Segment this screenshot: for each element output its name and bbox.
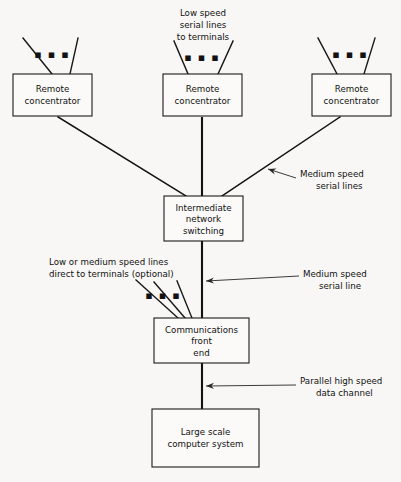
medium-speed-lines-line1: Medium speed: [300, 169, 364, 179]
node-remote-concentrator-right: Remote concentrator: [312, 74, 391, 116]
node-remote-concentrator-left: Remote concentrator: [13, 74, 92, 116]
medium-speed-lines-line2: serial lines: [316, 181, 363, 191]
diagram-canvas: ▪ ▪ ▪ ▪ ▪ ▪ ▪ ▪ ▪ ▪ ▪ ▪ Remot: [0, 0, 401, 482]
optional-line1: Low or medium speed lines: [49, 257, 169, 267]
low-speed-line3: to terminals: [177, 32, 230, 42]
ellipsis-right: ▪ ▪ ▪: [332, 48, 368, 61]
label-remote-concentrator-left-line1: Remote: [36, 84, 70, 94]
leader-parallel-high-speed-channel: [206, 385, 296, 386]
medium-speed-line-line2: serial line: [319, 281, 361, 291]
node-large-scale-computer-system: Large scale computer system: [152, 409, 259, 467]
low-speed-line1: Low speed: [180, 8, 226, 18]
leader-medium-speed-serial-lines: [268, 169, 296, 178]
annotation-medium-speed-serial-line: Medium speed serial line: [206, 269, 367, 291]
terminal-fan-left: ▪ ▪ ▪: [23, 38, 78, 74]
label-computer-system-line1: Large scale: [181, 427, 231, 437]
ellipsis-left: ▪ ▪ ▪: [34, 48, 70, 61]
medium-speed-line-line1: Medium speed: [303, 269, 367, 279]
label-computer-system-line2: computer system: [167, 439, 243, 449]
label-remote-concentrator-right-line2: concentrator: [324, 96, 380, 106]
node-communications-front-end: Communications front end: [154, 318, 249, 363]
label-front-end-line2: front: [191, 336, 212, 346]
annotation-medium-speed-serial-lines: Medium speed serial lines: [268, 169, 364, 191]
link-left-concentrator-to-switch: [58, 117, 186, 196]
annotation-low-or-medium-optional: Low or medium speed lines direct to term…: [49, 257, 174, 279]
terminal-line-left-2: [70, 38, 78, 74]
low-speed-line2: serial lines: [180, 20, 227, 30]
network-diagram: ▪ ▪ ▪ ▪ ▪ ▪ ▪ ▪ ▪ ▪ ▪ ▪ Remot: [0, 0, 401, 482]
optional-line2: direct to terminals (optional): [49, 269, 174, 279]
label-remote-concentrator-right-line1: Remote: [335, 84, 369, 94]
label-intermediate-line3: switching: [183, 226, 224, 236]
terminal-line-center-2: [218, 41, 233, 74]
label-intermediate-line1: Intermediate: [175, 203, 231, 213]
leader-medium-speed-serial-line: [206, 276, 299, 281]
terminal-fan-center: ▪ ▪ ▪: [174, 41, 233, 74]
annotation-low-speed-serial-lines: Low speed serial lines to terminals: [177, 8, 230, 42]
parallel-channel-line1: Parallel high speed: [300, 376, 382, 386]
label-remote-concentrator-left-line2: concentrator: [25, 96, 81, 106]
ellipsis-optional: ▪ ▪ ▪: [145, 289, 181, 302]
label-front-end-line1: Communications: [165, 325, 238, 335]
annotation-parallel-high-speed-channel: Parallel high speed data channel: [206, 376, 382, 398]
ellipsis-center: ▪ ▪ ▪: [184, 51, 220, 64]
terminal-fan-right: ▪ ▪ ▪: [318, 38, 375, 74]
label-intermediate-line2: network: [186, 214, 221, 224]
label-remote-concentrator-center-line1: Remote: [186, 84, 220, 94]
optional-terminal-fan: ▪ ▪ ▪: [136, 280, 192, 318]
node-intermediate-network-switching: Intermediate network switching: [164, 196, 243, 241]
label-remote-concentrator-center-line2: concentrator: [175, 96, 231, 106]
parallel-channel-line2: data channel: [316, 388, 373, 398]
label-front-end-line3: end: [193, 348, 209, 358]
node-remote-concentrator-center: Remote concentrator: [163, 74, 242, 116]
